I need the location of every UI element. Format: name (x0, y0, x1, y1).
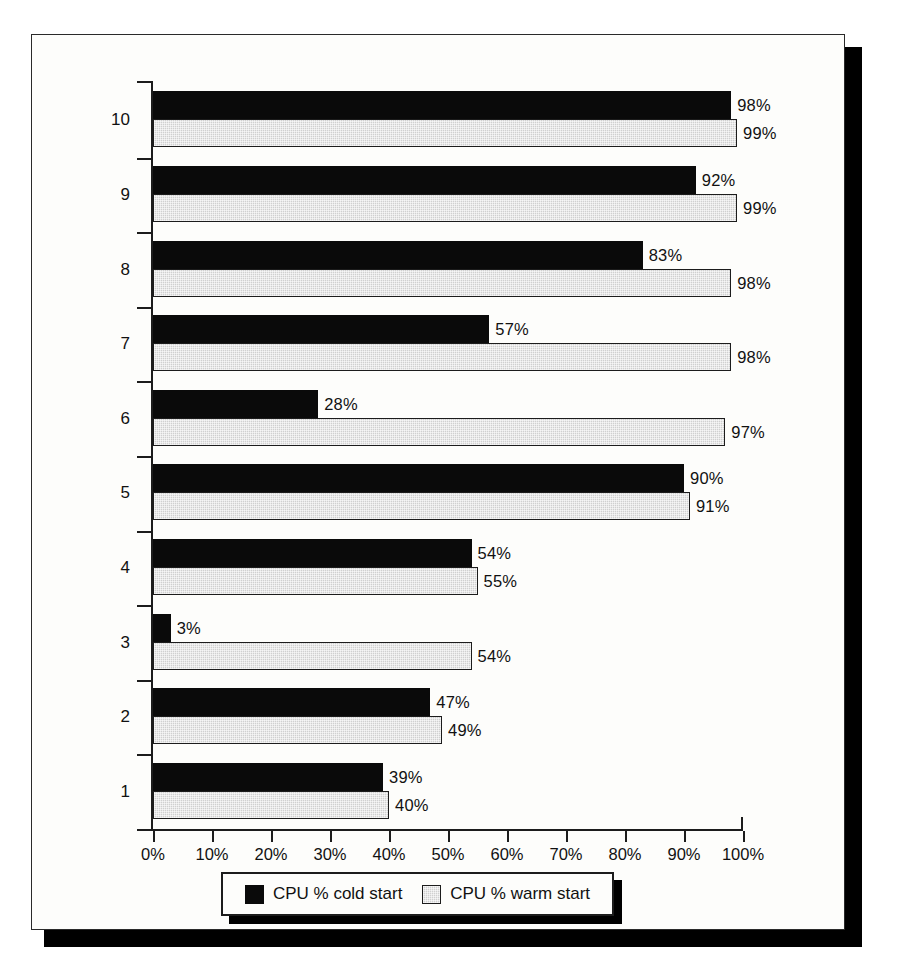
y-axis-category-6: 6 (92, 409, 130, 429)
y-axis-tick (137, 680, 153, 682)
y-axis-category-5: 5 (92, 483, 130, 503)
bar-warm-7[interactable]: 98% (153, 343, 731, 371)
bar-group: 28%97% (153, 390, 745, 446)
bar-cold-4[interactable]: 54% (153, 539, 472, 567)
y-axis-tick (137, 829, 153, 831)
x-axis-tick (271, 831, 273, 842)
bar-value-label: 39% (389, 767, 423, 786)
x-axis-tick (389, 831, 391, 842)
x-axis-tick-label: 70% (549, 845, 582, 864)
bar-value-label: 98% (737, 273, 771, 292)
chart-legend: CPU % cold startCPU % warm start (221, 872, 614, 916)
x-axis-tick (625, 831, 627, 842)
legend-label: CPU % cold start (273, 884, 402, 904)
bar-value-label: 99% (743, 124, 777, 143)
bar-warm-3[interactable]: 54% (153, 642, 472, 670)
bar-cold-10[interactable]: 98% (153, 91, 731, 119)
bar-warm-6[interactable]: 97% (153, 418, 725, 446)
x-axis-tick-label: 40% (372, 845, 405, 864)
black-square-icon (245, 885, 264, 904)
y-axis-category-1: 1 (92, 782, 130, 802)
bar-group: 90%91% (153, 464, 745, 520)
x-axis-tick (743, 831, 745, 842)
bar-warm-9[interactable]: 99% (153, 194, 737, 222)
bar-cold-7[interactable]: 57% (153, 315, 489, 343)
x-axis-tick (448, 831, 450, 842)
bar-value-label: 28% (324, 394, 358, 413)
bar-value-label: 40% (395, 795, 429, 814)
bar-warm-10[interactable]: 99% (153, 119, 737, 147)
x-axis-tick-label: 10% (195, 845, 228, 864)
bar-group: 57%98% (153, 315, 745, 371)
bar-warm-4[interactable]: 55% (153, 567, 478, 595)
y-axis-tick (137, 232, 153, 234)
bar-cold-2[interactable]: 47% (153, 688, 430, 716)
bar-group: 92%99% (153, 166, 745, 222)
y-axis-tick (137, 754, 153, 756)
bar-value-label: 99% (743, 198, 777, 217)
x-axis-tick (507, 831, 509, 842)
bar-group: 98%99% (153, 91, 745, 147)
bar-cold-1[interactable]: 39% (153, 763, 383, 791)
bar-warm-5[interactable]: 91% (153, 492, 690, 520)
x-axis-tick-label: 50% (431, 845, 464, 864)
y-axis-category-3: 3 (92, 633, 130, 653)
y-axis-tick (137, 381, 153, 383)
bar-value-label: 97% (731, 422, 765, 441)
bar-warm-8[interactable]: 98% (153, 269, 731, 297)
bar-value-label: 49% (448, 721, 482, 740)
x-axis-tick-label: 0% (141, 845, 165, 864)
x-axis-tick-label: 30% (313, 845, 346, 864)
y-axis-tick (137, 531, 153, 533)
y-axis-category-7: 7 (92, 334, 130, 354)
bar-value-label: 98% (737, 96, 771, 115)
bar-value-label: 54% (478, 646, 512, 665)
bar-cold-8[interactable]: 83% (153, 241, 643, 269)
x-axis-tick (684, 831, 686, 842)
chart-page-frame: 10987654321 98%99%92%99%83%98%57%98%28%9… (31, 34, 845, 930)
x-axis-tick (566, 831, 568, 842)
x-axis-tick (330, 831, 332, 842)
x-axis-tick (153, 831, 155, 842)
bar-warm-1[interactable]: 40% (153, 791, 389, 819)
bar-value-label: 83% (649, 245, 683, 264)
x-axis-tick-label: 90% (667, 845, 700, 864)
bar-value-label: 55% (484, 571, 518, 590)
y-axis-category-4: 4 (92, 558, 130, 578)
bar-value-label: 91% (696, 497, 730, 516)
y-axis-category-8: 8 (92, 260, 130, 280)
chart-plot-area: 10987654321 98%99%92%99%83%98%57%98%28%9… (32, 35, 846, 931)
bar-value-label: 98% (737, 348, 771, 367)
y-axis-category-2: 2 (92, 707, 130, 727)
y-axis-category-10: 10 (92, 110, 130, 130)
bar-group: 83%98% (153, 241, 745, 297)
bar-warm-2[interactable]: 49% (153, 716, 442, 744)
x-axis-tick-label: 100% (722, 845, 764, 864)
bar-value-label: 3% (177, 618, 201, 637)
bar-value-label: 92% (702, 170, 736, 189)
bar-cold-5[interactable]: 90% (153, 464, 684, 492)
bar-value-label: 54% (478, 543, 512, 562)
y-axis-category-9: 9 (92, 185, 130, 205)
y-axis-tick (137, 456, 153, 458)
legend-entry-cold-start[interactable]: CPU % cold start (245, 884, 402, 904)
x-axis-tick-label: 80% (608, 845, 641, 864)
legend-label: CPU % warm start (450, 884, 590, 904)
bar-cold-3[interactable]: 3% (153, 614, 171, 642)
gray-square-icon (422, 885, 441, 904)
bar-group: 39%40% (153, 763, 745, 819)
bar-value-label: 47% (436, 693, 470, 712)
x-axis-tick-label: 60% (490, 845, 523, 864)
bar-cold-9[interactable]: 92% (153, 166, 696, 194)
y-axis-tick (137, 605, 153, 607)
bar-group: 47%49% (153, 688, 745, 744)
x-axis-tick (212, 831, 214, 842)
bar-group: 54%55% (153, 539, 745, 595)
y-axis-tick (137, 307, 153, 309)
bar-cold-6[interactable]: 28% (153, 390, 318, 418)
bar-value-label: 90% (690, 469, 724, 488)
bar-value-label: 57% (495, 320, 529, 339)
bar-group: 3%54% (153, 614, 745, 670)
x-axis-end-cap (741, 817, 743, 831)
legend-entry-warm-start[interactable]: CPU % warm start (422, 884, 590, 904)
